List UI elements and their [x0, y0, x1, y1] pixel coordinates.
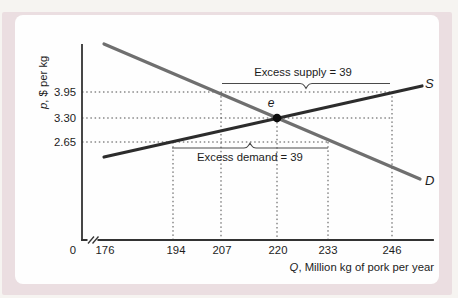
demand-curve-label: D — [425, 173, 434, 188]
excess-demand-label: Excess demand = 39 — [197, 151, 303, 163]
equilibrium-label: e — [268, 96, 275, 110]
supply-curve-label: S — [425, 76, 434, 91]
y-tick-label: 3.30 — [54, 112, 76, 124]
axis-break-icon — [88, 237, 99, 244]
y-tick-label: 2.65 — [54, 136, 76, 148]
equilibrium-point — [273, 114, 282, 123]
x-tick-label: 233 — [319, 244, 338, 256]
x-axis-title: Q, Million kg of pork per year — [290, 261, 435, 273]
x-tick-label: 0 — [70, 244, 76, 256]
y-axis-title: p, $ per kg — [37, 56, 49, 110]
excess-supply-label: Excess supply = 39 — [254, 66, 352, 78]
x-tick-label: 246 — [383, 244, 402, 256]
x-tick-label: 220 — [269, 244, 288, 256]
supply-demand-figure: e Excess supply = 39 Excess demand = 39 … — [0, 0, 458, 298]
x-tick-label: 194 — [167, 244, 186, 256]
x-tick-label: 176 — [96, 244, 115, 256]
y-tick-label: 3.95 — [54, 86, 76, 98]
x-tick-label: 207 — [213, 244, 232, 256]
